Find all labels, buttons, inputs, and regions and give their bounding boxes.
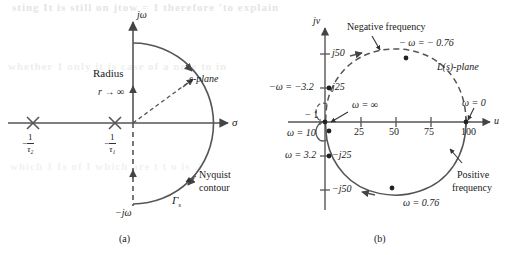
positive-frequency-label-line1: Positive	[457, 170, 489, 180]
u-tick-label-25: 25	[354, 127, 364, 137]
annotation-omega-neg-3-2: −ω = −3.2	[269, 82, 314, 92]
jv-tick-label-j50: j50	[332, 48, 345, 58]
jomega-axis-label: jω	[137, 10, 147, 20]
gamma-subscript: s	[178, 201, 181, 209]
nyquist-contour-label-line2: contour	[199, 183, 230, 193]
pole-label-tau2-num: 1	[27, 133, 34, 144]
u-tick-label-100: 100	[461, 127, 476, 137]
gamma-s-label: Γs	[172, 195, 181, 209]
ls-plane-label: L(s)-plane	[437, 62, 479, 72]
point-omega-0-76	[390, 186, 395, 191]
sigma-axis-label: σ	[232, 117, 237, 128]
positive-frequency-label-line2: frequency	[452, 183, 492, 193]
s-plane-label: s-plane	[189, 74, 218, 84]
figure-nyquist-contour-and-plot: sting It is still on jtow = 1 therefore …	[0, 0, 509, 255]
negative-frequency-leader	[372, 36, 380, 50]
u-tick-label-50: 50	[389, 127, 399, 137]
annotation-omega-10: ω = 10	[287, 128, 316, 138]
annotation-minus-one: − 1	[305, 110, 318, 120]
radius-label: Radius	[93, 68, 124, 79]
omega-zero-leader	[468, 108, 474, 120]
annotation-omega-neg-0-76: − ω = − 0.76	[399, 38, 454, 48]
pole-label-tau1: − 1 τ₁	[104, 133, 116, 154]
point-omega-infinity	[323, 120, 328, 125]
ls-plane-text: L(s)-plane	[437, 61, 479, 72]
caption-a: (a)	[119, 234, 130, 244]
negative-frequency-label: Negative frequency	[347, 22, 426, 32]
caption-b: (b)	[374, 234, 386, 244]
annotation-omega-3-2: ω = 3.2	[285, 150, 316, 160]
pole-label-tau2: − 1 τ₂	[22, 133, 34, 154]
jv-tick-label-neg-j50: −j50	[332, 184, 352, 194]
omega-infinity-leader	[331, 112, 348, 122]
pole-label-tau1-num: 1	[109, 133, 116, 144]
annotation-omega-zero: ω = 0	[462, 98, 486, 108]
u-axis-label: u	[494, 116, 499, 126]
point-omega-neg-0-76	[404, 56, 409, 61]
jv-axis-label: jv	[313, 16, 320, 26]
u-tick-label-75: 75	[424, 127, 434, 137]
point-omega-zero	[464, 120, 469, 125]
point-omega-10	[327, 129, 332, 134]
annotation-omega-0-76: ω = 0.76	[403, 198, 439, 208]
jv-tick-label-neg-j25: −j25	[332, 150, 352, 160]
point-omega-neg-3-2	[327, 86, 332, 91]
panel-a-graphics	[8, 22, 228, 206]
negative-frequency-locus	[326, 49, 467, 122]
point-omega-3-2	[327, 154, 332, 159]
pole-label-tau1-den: τ₁	[109, 144, 116, 154]
annotation-omega-infinity: ω = ∞	[352, 100, 378, 110]
negative-frequency-arrow	[350, 53, 362, 56]
pole-label-tau2-den: τ₂	[27, 144, 34, 154]
jv-tick-label-j25: j25	[332, 82, 345, 92]
nyquist-contour-label-line1: Nyquist	[199, 170, 231, 180]
jomega-negative-axis-label: −jω	[115, 208, 132, 218]
radius-value-label: r → ∞	[98, 87, 124, 97]
